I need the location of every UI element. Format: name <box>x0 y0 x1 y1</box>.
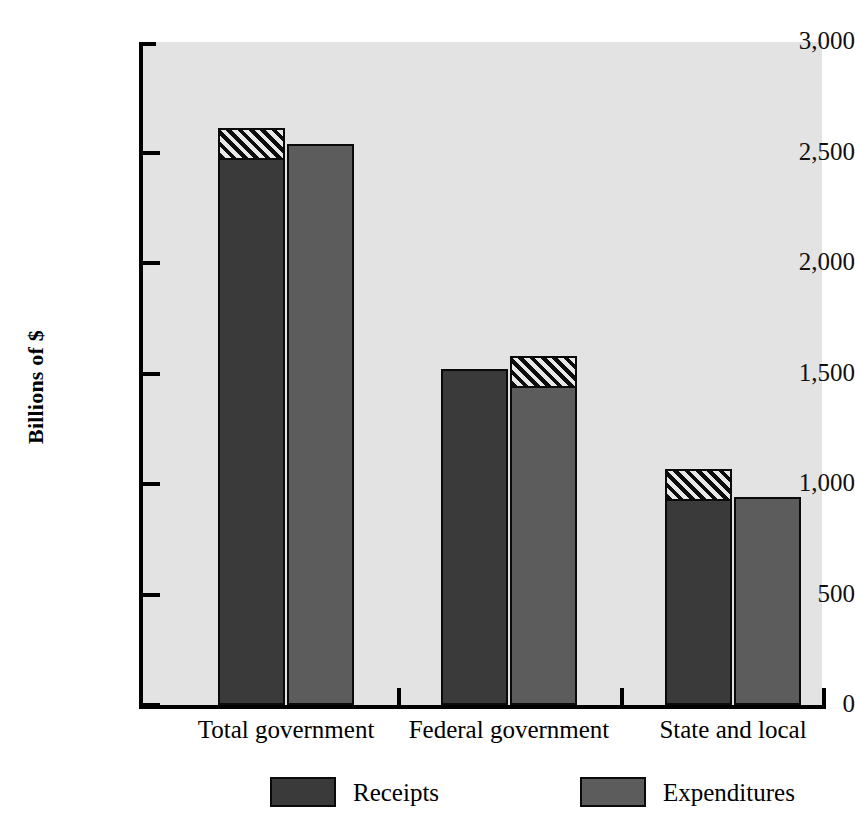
legend-swatch-receipts <box>270 777 336 807</box>
y-axis-tick-label: 2,500 <box>733 139 855 164</box>
bar-expenditures-federal-government <box>510 356 577 705</box>
bar-expenditures-state-and-local <box>734 497 801 705</box>
bar-chart-figure: Billions of $ 05001,0001,5002,0002,5003,… <box>0 0 855 823</box>
y-axis-title: Billions of $ <box>23 287 49 487</box>
legend-item-receipts[interactable]: Receipts <box>270 770 439 814</box>
bar-hatch-cap <box>512 358 575 388</box>
bar-receipts-federal-government <box>441 369 508 705</box>
bar-hatch-cap <box>667 471 730 501</box>
chart-legend: ReceiptsExpenditures <box>0 770 855 814</box>
bar-hatch-cap <box>220 130 283 160</box>
y-axis-top-cap-tick <box>139 42 156 46</box>
y-axis-tick-label: 1,000 <box>733 470 855 495</box>
legend-item-expenditures[interactable]: Expenditures <box>580 770 795 814</box>
legend-label-receipts: Receipts <box>353 780 439 805</box>
bar-receipts-state-and-local <box>665 469 732 705</box>
x-axis-tick <box>397 688 401 709</box>
legend-swatch-expenditures <box>580 777 646 807</box>
x-axis-tick <box>620 688 624 709</box>
y-axis-tick-label: 3,000 <box>733 28 855 53</box>
y-axis-tick-label: 2,000 <box>733 249 855 274</box>
x-axis-line <box>139 705 826 709</box>
y-axis-tick <box>143 372 160 376</box>
y-axis-tick <box>143 703 160 707</box>
bar-expenditures-total-government <box>287 144 354 705</box>
y-axis-tick <box>143 151 160 155</box>
y-axis-tick <box>143 482 160 486</box>
y-axis-tick <box>143 593 160 597</box>
y-axis-line <box>139 42 143 709</box>
bar-receipts-total-government <box>218 128 285 705</box>
legend-label-expenditures: Expenditures <box>663 780 795 805</box>
y-axis-tick-label: 1,500 <box>733 360 855 385</box>
category-label-state-and-local: State and local <box>573 716 855 744</box>
y-axis-tick <box>143 261 160 265</box>
